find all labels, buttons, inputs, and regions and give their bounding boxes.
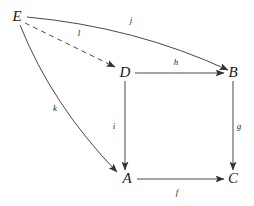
- edge-label-f: f: [176, 188, 179, 197]
- edge-label-j: j: [130, 16, 133, 25]
- edge-arrow-l: [25, 23, 115, 67]
- edge-arrow-k: [20, 25, 117, 172]
- node-label-E: E: [12, 9, 21, 24]
- edge-label-g: g: [237, 122, 242, 131]
- edge-arrow-j: [27, 17, 228, 70]
- edge-label-h: h: [174, 58, 179, 67]
- node-label-D: D: [120, 65, 131, 80]
- edge-label-k: k: [53, 104, 57, 113]
- node-label-C: C: [228, 171, 238, 186]
- edge-label-l: l: [78, 29, 81, 38]
- node-label-B: B: [228, 65, 237, 80]
- commutative-diagram: E D B A C j l k h i g f: [0, 0, 254, 206]
- edge-label-i: i: [113, 122, 116, 131]
- node-label-A: A: [122, 171, 131, 186]
